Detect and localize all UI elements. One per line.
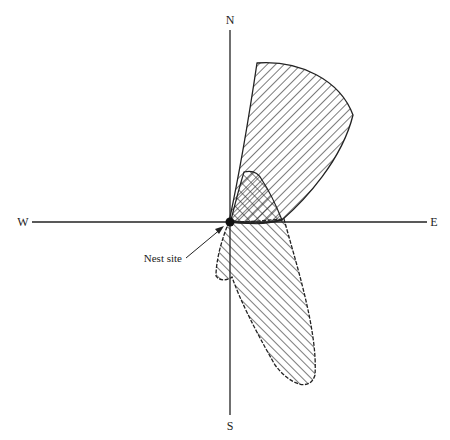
lower-lobe xyxy=(216,219,315,385)
north-label: N xyxy=(226,13,235,27)
nest-site-marker xyxy=(226,218,235,227)
south-label: S xyxy=(227,419,234,433)
orientation-diagram: N S W E Nest site xyxy=(0,0,450,440)
nest-site-label: Nest site xyxy=(144,252,182,264)
west-label: W xyxy=(17,215,29,229)
nest-site-arrow xyxy=(186,228,222,258)
east-label: E xyxy=(430,215,437,229)
